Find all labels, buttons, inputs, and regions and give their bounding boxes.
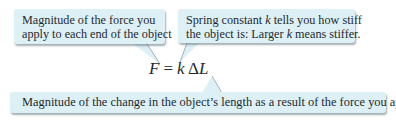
callout-length-change: Magnitude of the change in the object’s …: [10, 92, 386, 113]
equation-k: k: [177, 59, 185, 78]
equation-equals: =: [159, 59, 177, 78]
callout-force-line-2: apply to each end of the object: [22, 28, 165, 42]
equation-length: L: [199, 59, 208, 78]
text-segment: Spring constant: [186, 13, 265, 27]
text-segment: tells you how stiff: [271, 13, 362, 27]
hookes-law-equation: F=k ΔL: [149, 59, 208, 79]
callout-spring-line-2: the object is: Larger k means stiffer.: [186, 28, 355, 42]
equation-delta: Δ: [188, 59, 199, 78]
callout-spring-line-1: Spring constant k tells you how stiff: [186, 14, 355, 28]
callout-force-magnitude: Magnitude of the force you apply to each…: [14, 9, 165, 44]
callout-spring-constant: Spring constant k tells you how stiff th…: [178, 9, 355, 43]
text-segment: the object is: Larger: [186, 27, 287, 41]
equation-force: F: [149, 59, 159, 78]
callout-length-text: Magnitude of the change in the object’s …: [22, 96, 386, 110]
text-segment: means stiffer.: [292, 27, 360, 41]
callout-force-line-1: Magnitude of the force you: [22, 14, 165, 28]
